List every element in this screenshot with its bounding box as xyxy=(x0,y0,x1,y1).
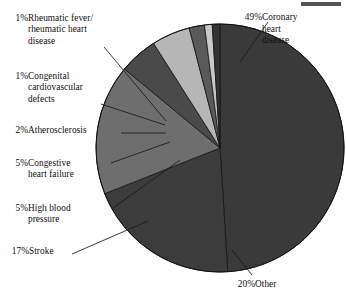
callout-hbp-text: High blood pressure xyxy=(28,203,71,226)
callout-rheumatic-text: Rheumatic fever/ rheumatic heart disease xyxy=(28,13,93,47)
pie-slices-group xyxy=(96,24,344,272)
callout-chf-text: Congestive heart failure xyxy=(28,158,74,181)
callout-coronary-heart-disease: 49%Coronary heart disease xyxy=(243,12,298,47)
callout-high-blood-pressure: 5%High blood pressure xyxy=(13,203,71,226)
callout-other-percent: 20% xyxy=(236,279,255,290)
callout-congenital-text: Congenital cardiovascular defects xyxy=(28,71,83,105)
callout-rheumatic-fever: 1%Rheumatic fever/ rheumatic heart disea… xyxy=(13,13,93,47)
callout-congenital-percent: 1% xyxy=(13,71,28,82)
callout-other-text: Other xyxy=(255,279,276,290)
callout-atherosclerosis-percent: 2% xyxy=(13,125,28,136)
callout-coronary-text: Coronary heart disease xyxy=(262,12,298,47)
callout-other: 20%Other xyxy=(236,279,276,290)
callout-rheumatic-percent: 1% xyxy=(13,13,28,24)
callout-chf-percent: 5% xyxy=(13,158,28,169)
pie-chart-figure: 1%Rheumatic fever/ rheumatic heart disea… xyxy=(0,0,346,300)
callout-stroke: 17%Stroke xyxy=(10,246,54,257)
callout-hbp-percent: 5% xyxy=(13,203,28,214)
callout-atherosclerosis: 2%Atherosclerosis xyxy=(13,125,87,136)
callout-stroke-percent: 17% xyxy=(10,246,29,257)
callout-congenital-defects: 1%Congenital cardiovascular defects xyxy=(13,71,83,105)
callout-stroke-text: Stroke xyxy=(29,246,54,257)
pie-slice-coronary-heart-disease xyxy=(220,24,344,272)
callout-atherosclerosis-text: Atherosclerosis xyxy=(28,125,87,136)
callout-congestive-heart-failure: 5%Congestive heart failure xyxy=(13,158,74,181)
callout-coronary-percent: 49% xyxy=(243,12,262,23)
